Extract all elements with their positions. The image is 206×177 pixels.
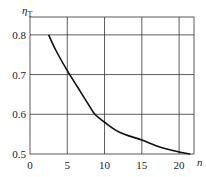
- x-tick-label: 10: [99, 159, 111, 171]
- x-tick-labels: 05101520: [27, 159, 185, 171]
- plot-frame: [30, 17, 194, 154]
- chart: 05101520 0.50.60.70.8 ηT n: [0, 0, 206, 177]
- x-axis-label: n: [197, 156, 203, 168]
- y-tick-label: 0.5: [12, 148, 26, 160]
- series-line: [49, 35, 191, 154]
- x-tick-label: 0: [27, 159, 33, 171]
- x-tick-label: 15: [136, 159, 148, 171]
- y-tick-label: 0.8: [12, 29, 26, 41]
- y-tick-label: 0.7: [12, 69, 26, 81]
- y-axis-label: ηT: [22, 4, 32, 19]
- y-tick-labels: 0.50.60.70.8: [12, 29, 26, 160]
- y-tick-label: 0.6: [12, 108, 26, 120]
- series-layer: [49, 35, 191, 154]
- x-tick-label: 20: [174, 159, 186, 171]
- x-tick-label: 5: [65, 159, 71, 171]
- grid: [30, 17, 194, 154]
